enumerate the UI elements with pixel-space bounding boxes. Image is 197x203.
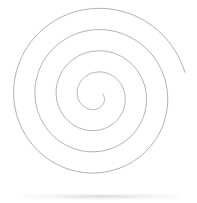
spiral-curve (14, 8, 185, 173)
spiral-drawing (0, 0, 197, 203)
image-canvas (0, 0, 197, 203)
